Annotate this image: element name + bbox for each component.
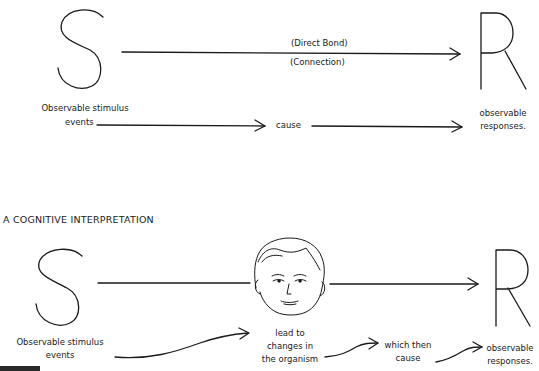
diagram-canvas: [0, 0, 539, 371]
cognitive-response-label-line2: responses.: [480, 356, 539, 367]
cognitive-response-label-line1: observable: [480, 343, 539, 354]
direct-bond-arrow: [122, 52, 460, 54]
cropped-caption-bar: [0, 366, 40, 371]
organism-to-cause-curve-arrow: [325, 343, 378, 357]
connection-label: (Connection): [290, 57, 345, 68]
cause-to-response-curve-arrow: [436, 347, 482, 362]
response-label-line2: responses.: [473, 121, 533, 132]
organism-label-line1: lead to: [250, 328, 330, 339]
cognitive-cause-label-line1: which then: [375, 340, 441, 351]
cognitive-stimulus-label-line2: events: [10, 350, 110, 361]
stimulus-to-organism-curve-arrow: [115, 333, 248, 358]
face-icon: [255, 238, 325, 315]
stimulus-to-cause-arrow: [97, 125, 265, 126]
response-r-shape: [481, 13, 526, 89]
stimulus-s-shape-cognitive: [36, 249, 82, 325]
stimulus-s-shape: [58, 10, 103, 88]
stimulus-label-line1: Observable stimulus: [35, 103, 135, 114]
cause-to-response-arrow: [312, 126, 462, 127]
organism-label-line3: the organism: [250, 354, 330, 365]
cognitive-heading: A COGNITIVE INTERPRETATION: [3, 214, 154, 225]
response-r-shape-cognitive: [496, 250, 530, 326]
cognitive-stimulus-label-line1: Observable stimulus: [10, 337, 110, 348]
stimulus-label-line2: events: [65, 117, 94, 128]
cause-label: cause: [276, 120, 301, 131]
organism-label-line2: changes in: [250, 341, 330, 352]
direct-bond-label: (Direct Bond): [291, 38, 348, 49]
cognitive-cause-label-line2: cause: [375, 353, 441, 364]
response-label-line1: observable: [473, 108, 533, 119]
